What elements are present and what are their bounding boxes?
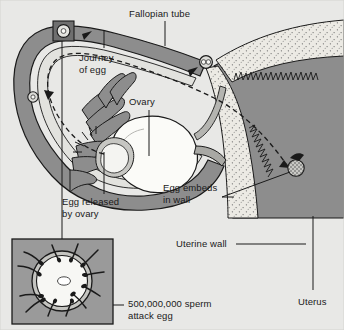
inset-egg-nucleus [58, 277, 71, 285]
diagram-canvas [0, 0, 344, 330]
label-uterine-wall: Uterine wall [176, 238, 227, 250]
journey-marker-released [28, 92, 38, 102]
journey-marker-fertilisation [53, 21, 74, 41]
label-ovary: Ovary [129, 96, 155, 108]
label-sperm-attack-line2: attack egg [128, 310, 173, 322]
label-egg-released-line2: by ovary [62, 208, 99, 220]
label-egg-embeds-line2: in wall [163, 194, 190, 206]
label-journey-of-egg-line1: Journey [79, 52, 114, 64]
anatomy-diagram: Fallopian tube Journey of egg Ovary Egg … [0, 0, 344, 330]
label-uterus: Uterus [298, 296, 327, 308]
journey-marker-dividing [200, 56, 213, 69]
sperm-inset [12, 239, 113, 324]
label-egg-released-line1: Egg released [62, 196, 119, 208]
label-fallopian-tube: Fallopian tube [129, 8, 190, 20]
label-egg-embeds-line1: Egg embeds [163, 182, 217, 194]
label-sperm-attack-line1: 500,000,000 sperm [128, 298, 212, 310]
follicle-cavity [101, 144, 129, 173]
label-journey-of-egg-line2: of egg [79, 64, 106, 76]
